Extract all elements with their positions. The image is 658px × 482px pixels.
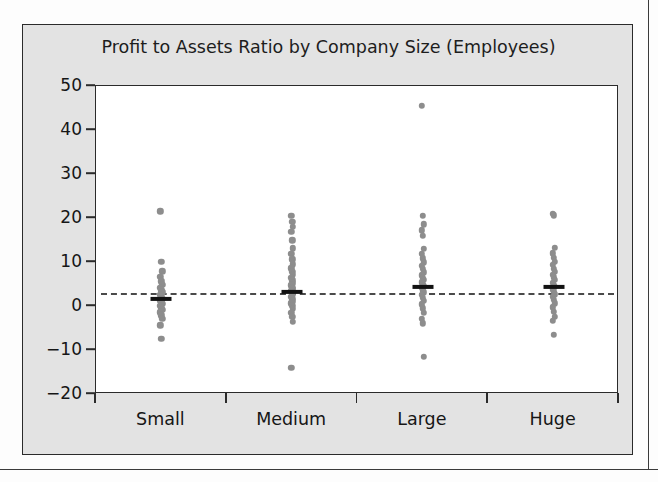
x-axis-tick-mark [486, 393, 488, 403]
y-axis-tick-mark [86, 304, 95, 306]
data-point [157, 322, 163, 328]
data-point [157, 208, 163, 214]
group-mean-marker [412, 285, 433, 289]
y-axis-tick-label: 30 [36, 163, 82, 183]
y-axis-tick-label: 10 [36, 251, 82, 271]
y-axis-tick-label: −10 [36, 339, 82, 359]
data-point [288, 228, 294, 234]
x-axis-tick-label-medium: Medium [256, 409, 326, 429]
plot-area [95, 85, 618, 393]
y-axis-tick-mark [86, 172, 95, 174]
x-axis-tick-mark [356, 393, 358, 403]
y-axis-tick-mark [86, 348, 95, 350]
y-axis-tick-mark [86, 84, 95, 86]
x-axis-tick-mark [225, 393, 227, 403]
data-point [550, 317, 556, 323]
data-point [421, 353, 427, 359]
page-border-bottom [0, 469, 658, 470]
y-axis-tick-label: −20 [36, 383, 82, 403]
y-axis-tick-label: 50 [36, 75, 82, 95]
data-point [288, 364, 294, 370]
y-axis-tick-mark [86, 216, 95, 218]
y-axis-tick-label: 20 [36, 207, 82, 227]
data-point [289, 237, 295, 243]
group-mean-marker [282, 290, 303, 294]
grand-mean-dashed-line [101, 293, 614, 295]
data-point [419, 103, 425, 109]
x-axis-tick-label-huge: Huge [530, 409, 576, 429]
data-point [420, 320, 426, 326]
group-mean-marker [151, 297, 172, 301]
data-point [290, 319, 296, 325]
chart-title: Profit to Assets Ratio by Company Size (… [23, 37, 634, 57]
y-axis-tick-label: 40 [36, 119, 82, 139]
data-point [158, 258, 164, 264]
data-point [550, 332, 556, 338]
data-point [158, 335, 164, 341]
figure-container: Profit to Assets Ratio by Company Size (… [0, 0, 658, 482]
group-mean-marker [543, 285, 564, 289]
data-point [420, 233, 426, 239]
x-axis-tick-mark [617, 393, 619, 403]
x-axis-tick-label-large: Large [397, 409, 446, 429]
data-point [159, 316, 165, 322]
x-axis-tick-mark [94, 393, 96, 403]
page-border-right [648, 0, 649, 470]
y-axis-tick-mark [86, 260, 95, 262]
y-axis-tick-label: 0 [36, 295, 82, 315]
data-point [420, 213, 426, 219]
data-point [550, 212, 556, 218]
y-axis-tick-mark [86, 128, 95, 130]
x-axis-tick-label-small: Small [136, 409, 185, 429]
chart-panel: Profit to Assets Ratio by Company Size (… [22, 24, 633, 455]
